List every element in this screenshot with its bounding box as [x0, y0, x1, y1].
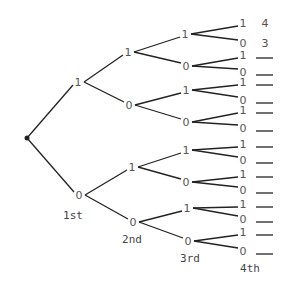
tree-edge: [134, 37, 180, 52]
tree-edge: [84, 55, 123, 82]
tree-edge: [27, 85, 73, 138]
tree-edge: [192, 122, 238, 125]
tree-edge: [84, 82, 124, 102]
tree-edge: [85, 170, 127, 195]
tree-node-label: 0: [240, 122, 247, 135]
tree-edge: [191, 34, 238, 40]
tree-node-label: 1: [184, 202, 191, 215]
tree-edge: [85, 195, 128, 219]
tree-edge: [192, 90, 238, 97]
tree-edge: [192, 58, 238, 66]
tree-node-label: 0: [240, 213, 247, 226]
tree-node-label: 1: [125, 46, 132, 59]
tree-edge: [192, 85, 238, 90]
tree-node-label: 0: [183, 176, 190, 189]
tree-node-label: 1: [240, 226, 247, 239]
tree-edge: [135, 105, 181, 119]
tree-edge: [192, 150, 238, 157]
tree-node-label: 0: [185, 235, 192, 248]
tree-node-label: 1: [240, 138, 247, 151]
tree-node-label: 0: [130, 216, 137, 229]
tree-edge: [139, 211, 182, 222]
tree-node-label: 1: [182, 28, 189, 41]
tree-edge: [193, 208, 238, 216]
tree-node-label: 0: [183, 60, 190, 73]
level-label: 4th: [240, 262, 260, 275]
probability-tree-diagram: 101010101010101010101010101010431st2nd3r…: [0, 0, 292, 286]
outcome-answer: 3: [262, 37, 269, 50]
tree-edge: [192, 147, 238, 150]
tree-edge: [27, 138, 74, 192]
tree-node-label: 0: [183, 116, 190, 129]
tree-node-label: 1: [240, 104, 247, 117]
tree-edge: [139, 222, 183, 238]
tree-node-label: 1: [240, 198, 247, 211]
tree-node-label: 1: [183, 84, 190, 97]
tree-edge: [192, 182, 238, 187]
tree-edge: [193, 207, 238, 208]
tree-edge: [194, 241, 238, 248]
outcome-answer: 4: [262, 17, 269, 30]
tree-node-label: 0: [240, 154, 247, 167]
level-label: 1st: [63, 209, 83, 222]
tree-edge: [134, 52, 181, 63]
tree-edge: [194, 235, 238, 241]
tree-node-label: 1: [240, 49, 247, 62]
tree-edge: [192, 177, 238, 182]
tree-edge: [138, 167, 181, 179]
tree-node-label: 0: [76, 189, 83, 202]
tree-edge: [192, 113, 238, 122]
tree-node-label: 1: [75, 76, 82, 89]
tree-node-label: 1: [183, 144, 190, 157]
tree-edge: [135, 93, 181, 105]
level-label: 2nd: [122, 233, 142, 246]
tree-edge: [192, 66, 238, 69]
tree-node-label: 1: [240, 76, 247, 89]
root-node-dot: [25, 136, 30, 141]
level-label: 3rd: [180, 252, 200, 265]
tree-node-label: 1: [240, 17, 247, 30]
tree-node-label: 0: [240, 184, 247, 197]
tree-node-label: 0: [240, 245, 247, 258]
tree-edge: [191, 26, 238, 34]
tree-node-label: 1: [240, 168, 247, 181]
tree-node-label: 0: [126, 99, 133, 112]
tree-canvas: 101010101010101010101010101010431st2nd3r…: [0, 0, 292, 286]
tree-node-label: 1: [129, 161, 136, 174]
tree-edge: [138, 153, 181, 167]
